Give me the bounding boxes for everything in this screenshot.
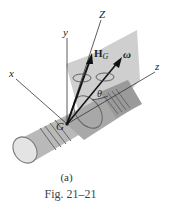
Z-axis-label: Z [99,8,106,20]
theta-label: θ [97,88,102,99]
x-axis-label: x [8,67,14,79]
HG-label-sub: G [103,52,109,61]
z-axis-label: z [154,60,160,72]
y-axis-label: y [62,26,68,38]
omega-label: ω [123,48,131,60]
subfigure-label: (a) [0,171,153,183]
center-of-mass-point [65,122,68,125]
G-label: G [56,120,64,132]
x-axis [16,79,67,124]
figure-caption: Fig. 21–21 [0,187,157,202]
